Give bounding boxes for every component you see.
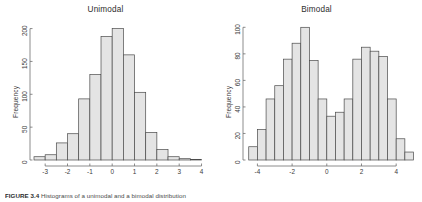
histogram-bar [112,29,123,160]
histogram-bar [275,86,284,160]
histogram-bar [370,51,379,160]
y-tick-label: 80 [234,52,241,60]
histogram-bar [146,132,157,160]
histogram-bar [335,112,344,160]
histogram-bar [168,157,179,160]
histogram-bar [301,27,310,160]
histogram-bar [283,59,292,160]
y-tick-label: 0 [21,160,28,164]
y-tick-label: 20 [234,132,241,140]
y-axis: 020406080100 [234,24,246,164]
y-tick-label: 200 [21,25,28,36]
histogram-bar [79,99,90,160]
histogram-bar [90,75,101,160]
y-axis: 050100150200 [21,25,33,164]
histogram-bar [388,99,397,160]
x-tick-label: 4 [200,168,204,175]
y-tick-label: 40 [234,105,241,113]
plot-area-bimodal: 020406080100-4-2024 [211,0,422,190]
x-tick-label: 4 [394,168,398,175]
histogram-bar [396,139,405,160]
histogram-bar [257,129,266,160]
x-tick-label: 2 [155,168,159,175]
figure-histograms: Unimodal Frequency 050100150200-3-2-1012… [0,0,422,202]
y-tick-label: 100 [234,24,241,35]
x-tick-label: -3 [42,168,48,175]
figure-caption-text: Histograms of a unimodal and a bimodal d… [41,192,186,199]
histogram-bar [45,155,56,160]
x-axis: -4-2024 [255,164,399,176]
histogram-bar [327,116,336,160]
chart-panel-unimodal: Unimodal Frequency 050100150200-3-2-1012… [0,0,211,190]
histogram-bar [309,60,318,160]
histogram-bar [101,36,112,160]
figure-caption: FIGURE 3.4 Histograms of a unimodal and … [5,192,417,202]
chart-panel-bimodal: Bimodal Frequency 020406080100-4-2024 [211,0,422,190]
histogram-bar [157,149,168,160]
histogram-bar [249,147,258,160]
histogram-bar [123,55,134,160]
figure-caption-label: FIGURE 3.4 [5,192,39,199]
x-tick-label: 1 [133,168,137,175]
histogram-bar [135,92,146,160]
x-tick-label: -4 [255,168,261,175]
histogram-bar [190,159,201,160]
x-tick-label: -2 [289,168,295,175]
histogram-bar [379,57,388,161]
histogram-bars [249,27,414,160]
y-tick-label: 60 [234,79,241,87]
plot-area-unimodal: 050100150200-3-2-101234 [0,0,211,190]
y-tick-label: 0 [234,160,241,164]
histogram-bars [34,29,202,160]
x-tick-label: -2 [65,168,71,175]
histogram-bar [318,99,327,160]
x-axis: -3-2-101234 [42,164,203,176]
x-tick-label: 2 [360,168,364,175]
y-tick-label: 150 [21,58,28,69]
histogram-bar [266,99,275,160]
y-tick-label: 50 [21,125,28,133]
histogram-bar [405,152,414,160]
histogram-bar [34,157,45,160]
histogram-bar [344,99,353,160]
x-tick-label: 0 [325,168,329,175]
x-tick-label: -1 [87,168,93,175]
histogram-bar [361,47,370,160]
histogram-bar [353,59,362,160]
histogram-bar [68,134,79,160]
y-tick-label: 100 [21,91,28,102]
histogram-bar [179,159,190,160]
histogram-bar [56,143,67,160]
x-tick-label: 3 [177,168,181,175]
histogram-bar [292,43,301,160]
x-tick-label: 0 [110,168,114,175]
